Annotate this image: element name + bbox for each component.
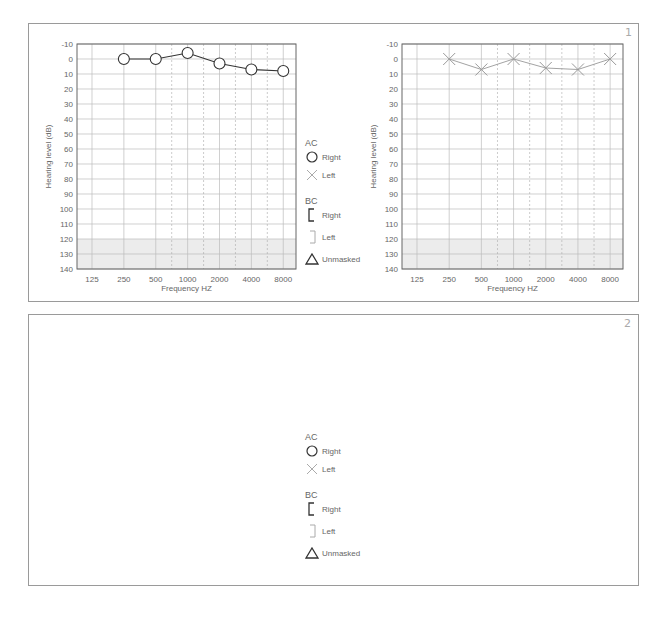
x-mark-icon — [305, 463, 319, 475]
legend-ac-right: Right — [322, 153, 341, 162]
y-tick-label: 0 — [394, 55, 399, 64]
legend-bc-header: BC — [305, 490, 360, 500]
x-tick-label: 1000 — [505, 275, 523, 284]
y-tick-label: 40 — [389, 115, 398, 124]
legend-bc-left: Left — [322, 233, 335, 242]
triangle-icon — [305, 547, 319, 559]
circle-marker-icon — [214, 58, 225, 69]
legend-ac-header: AC — [305, 138, 360, 148]
y-tick-label: 110 — [385, 220, 398, 229]
x-tick-label: 250 — [443, 275, 457, 284]
triangle-icon — [305, 253, 319, 265]
y-tick-label: 20 — [64, 85, 73, 94]
y-tick-label: 50 — [389, 130, 398, 139]
legend-bc-left: Left — [322, 527, 335, 536]
x-tick-label: 4000 — [242, 275, 260, 284]
x-tick-label: 2000 — [211, 275, 229, 284]
legend-ac-right: Right — [322, 447, 341, 456]
legend-unmasked: Unmasked — [322, 255, 360, 264]
legend-bc-right: Right — [322, 211, 341, 220]
y-tick-label: 80 — [64, 175, 73, 184]
y-tick-label: 10 — [64, 70, 73, 79]
x-tick-label: 2000 — [537, 275, 555, 284]
circle-marker-icon — [246, 64, 257, 75]
x-axis-label: Frequency HZ — [487, 284, 538, 293]
legend-bc-header: BC — [305, 196, 360, 206]
y-tick-label: 60 — [389, 145, 398, 154]
y-tick-label: 10 — [389, 70, 398, 79]
circle-marker-icon — [150, 54, 161, 65]
circle-marker-icon — [182, 48, 193, 59]
y-tick-label: 40 — [64, 115, 73, 124]
x-tick-label: 125 — [410, 275, 424, 284]
y-tick-label: 30 — [64, 100, 73, 109]
circle-icon — [305, 445, 319, 457]
circle-icon — [305, 151, 319, 163]
circle-marker-icon — [118, 54, 129, 65]
x-tick-label: 4000 — [569, 275, 587, 284]
legend-ac-left: Left — [322, 171, 335, 180]
legend-bc-right: Right — [322, 505, 341, 514]
y-tick-label: 110 — [60, 220, 73, 229]
x-tick-label: 500 — [149, 275, 163, 284]
y-tick-label: 140 — [385, 265, 399, 274]
y-tick-label: 130 — [60, 250, 74, 259]
y-tick-label: 120 — [60, 235, 74, 244]
bracket-left-icon — [305, 502, 319, 516]
legend-panel-1: AC Right Left BC Right Left Unmasked — [305, 138, 360, 268]
y-tick-label: 20 — [389, 85, 398, 94]
audiogram-chart-left-ear: -100102030405060708090100110120130140125… — [369, 40, 623, 293]
y-tick-label: -10 — [61, 40, 73, 49]
x-tick-label: 250 — [117, 275, 131, 284]
y-tick-label: 70 — [64, 160, 73, 169]
y-tick-label: 130 — [385, 250, 399, 259]
bracket-right-icon — [305, 230, 319, 244]
y-tick-label: 100 — [385, 205, 399, 214]
y-tick-label: 30 — [389, 100, 398, 109]
y-tick-label: -10 — [386, 40, 398, 49]
y-tick-label: 90 — [389, 190, 398, 199]
legend-unmasked: Unmasked — [322, 549, 360, 558]
x-mark-icon — [305, 169, 319, 181]
y-tick-label: 60 — [64, 145, 73, 154]
legend-ac-header: AC — [305, 432, 360, 442]
legend-panel-2: AC Right Left BC Right Left Unmasked — [305, 432, 360, 562]
bracket-left-icon — [305, 208, 319, 222]
y-tick-label: 0 — [69, 55, 74, 64]
circle-marker-icon — [278, 66, 289, 77]
y-tick-label: 120 — [385, 235, 399, 244]
y-tick-label: 90 — [64, 190, 73, 199]
audiogram-chart-right-ear: -100102030405060708090100110120130140125… — [44, 40, 296, 293]
x-tick-label: 1000 — [179, 275, 197, 284]
y-tick-label: 100 — [60, 205, 74, 214]
x-tick-label: 125 — [85, 275, 99, 284]
x-axis-label: Frequency HZ — [161, 284, 212, 293]
y-axis-label: Hearing level (dB) — [369, 124, 378, 188]
x-tick-label: 8000 — [601, 275, 619, 284]
panel-number-badge: 2 — [624, 317, 631, 330]
y-tick-label: 50 — [64, 130, 73, 139]
y-tick-label: 80 — [389, 175, 398, 184]
y-axis-label: Hearing level (dB) — [44, 124, 53, 188]
x-tick-label: 8000 — [274, 275, 292, 284]
y-tick-label: 140 — [60, 265, 74, 274]
y-tick-label: 70 — [389, 160, 398, 169]
x-tick-label: 500 — [475, 275, 489, 284]
bracket-right-icon — [305, 524, 319, 538]
legend-ac-left: Left — [322, 465, 335, 474]
